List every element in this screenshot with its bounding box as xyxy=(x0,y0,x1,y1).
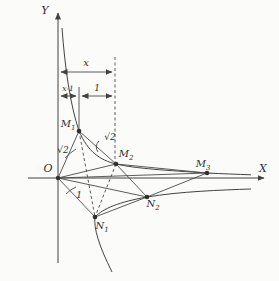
dim-label-1: 1 xyxy=(94,83,100,93)
segment-O-M3 xyxy=(58,173,207,178)
segment-N1-N2 xyxy=(95,197,147,217)
coordinate-axes: Y X O xyxy=(28,4,268,263)
segment-M2-N2 xyxy=(116,164,147,197)
segment-M2-M3 xyxy=(116,164,207,173)
origin-dot xyxy=(56,176,60,180)
point-dot-N1 xyxy=(93,215,98,220)
measure-label-sqrt2-M1M2: √2 xyxy=(104,132,116,142)
dashed-M1-N1 xyxy=(79,131,95,217)
dim-label-x-minus-1: x-1 xyxy=(62,84,73,93)
point-label-M1: M1 xyxy=(60,118,76,132)
lower-curve-right xyxy=(95,189,251,217)
origin-label: O xyxy=(43,162,52,175)
curves xyxy=(62,28,251,272)
figure-paper: Y X O x x-1 1 xyxy=(0,0,279,281)
point-dot-M2 xyxy=(114,162,119,167)
measure-label-one-ON1: 1 xyxy=(76,190,82,200)
y-axis-label: Y xyxy=(41,4,50,17)
tick-arc-M1M2 xyxy=(96,141,99,152)
dimension-lines: x x-1 1 xyxy=(61,57,115,164)
segment-O-N2 xyxy=(58,178,147,197)
chords xyxy=(58,131,207,217)
point-dot-M1 xyxy=(77,129,82,134)
measure-label-sqrt2-OM1: √2 xyxy=(57,145,69,155)
point-label-M3: M3 xyxy=(195,158,211,172)
point-label-M2: M2 xyxy=(118,148,134,162)
dim-label-x: x xyxy=(83,57,89,68)
x-axis-label: X xyxy=(258,162,268,175)
point-label-N2: N2 xyxy=(145,198,160,212)
math-figure-canvas: Y X O x x-1 1 xyxy=(0,0,279,281)
upper-curve-branch xyxy=(62,28,251,175)
